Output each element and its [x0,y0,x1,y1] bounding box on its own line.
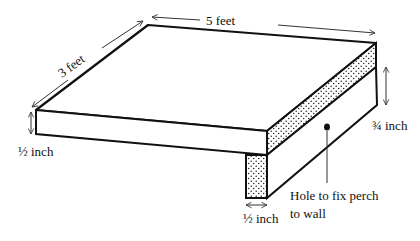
hole-label-line1: Hole to fix perch [290,188,379,203]
leg-width-label: ½ inch [243,211,279,226]
front-thickness-label: ½ inch [18,144,54,159]
side-thickness-label: ¾ inch [372,118,408,133]
length-label: 5 feet [206,13,236,28]
hole-label-line2: to wall [290,206,326,221]
leg-end-stippled [246,155,267,198]
length-dimension-arrow-right [278,25,375,33]
length-dimension-arrow-left [152,17,200,20]
perch-diagram: 5 feet 3 feet ½ inch ¾ inch ½ inch Hole … [0,0,420,241]
wall-hole [324,124,330,131]
